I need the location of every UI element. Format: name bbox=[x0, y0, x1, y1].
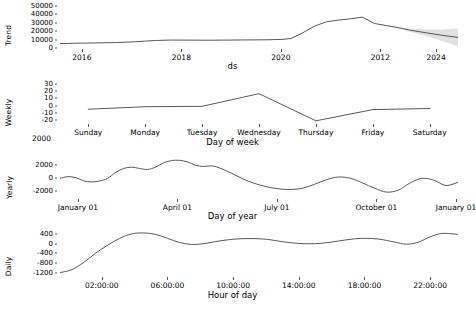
yearly-y-tick-mark bbox=[55, 165, 57, 166]
yearly-x-tick-mark bbox=[376, 199, 377, 202]
daily-x-tick-mark bbox=[430, 277, 431, 280]
trend-x-tick-mark bbox=[82, 49, 83, 52]
daily-y-tick-mark bbox=[55, 273, 57, 274]
daily-plot-area bbox=[60, 230, 458, 276]
daily-y-tick-mark bbox=[55, 243, 57, 244]
weekly-x-axis-label: Day of week bbox=[0, 137, 465, 147]
yearly-y-tick-label: -2000 bbox=[33, 188, 53, 195]
weekly-x-tick-label: Thursday bbox=[298, 128, 333, 137]
weekly-x-tick-mark bbox=[88, 124, 89, 127]
weekly-x-tick-label: Monday bbox=[130, 128, 160, 137]
daily-y-tick-label: 400 bbox=[40, 230, 53, 237]
yearly-x-tick-mark bbox=[78, 199, 79, 202]
daily-x-tick-label: 06:00:00 bbox=[151, 281, 185, 290]
daily-line-chart bbox=[60, 230, 458, 276]
weekly-x-tick-label: Wednesday bbox=[237, 128, 280, 137]
panel-trend: Trend 50000400003000020000100000 2016201… bbox=[0, 0, 465, 70]
weekly-y-tick-mark bbox=[55, 105, 57, 106]
yearly-x-tick-mark bbox=[277, 199, 278, 202]
yearly-x-tick-mark bbox=[456, 199, 457, 202]
yearly-line-chart bbox=[60, 156, 458, 198]
trend-x-tick-mark bbox=[181, 49, 182, 52]
daily-y-tick-mark bbox=[55, 263, 57, 264]
yearly-plot-area bbox=[60, 156, 458, 198]
daily-x-tick-label: 14:00:00 bbox=[282, 281, 316, 290]
weekly-y-tick-mark bbox=[55, 98, 57, 99]
daily-y-tick-mark bbox=[55, 253, 57, 254]
weekly-x-tick-mark bbox=[145, 124, 146, 127]
daily-x-tick-label: 10:00:00 bbox=[216, 281, 250, 290]
daily-x-axis-label: Hour of day bbox=[0, 290, 465, 300]
trend-y-tick-label: 10000 bbox=[31, 36, 53, 43]
daily-x-ticks: 02:00:0006:00:0010:00:0014:00:0018:00:00… bbox=[0, 277, 465, 291]
trend-y-tick-label: 30000 bbox=[31, 19, 53, 26]
trend-y-tick-mark bbox=[55, 22, 57, 23]
daily-y-tick-label: -1200 bbox=[33, 270, 53, 277]
trend-y-tick-label: 20000 bbox=[31, 28, 53, 35]
daily-x-tick-mark bbox=[167, 277, 168, 280]
daily-y-tick-label: -400 bbox=[37, 250, 53, 257]
daily-y-tick-label: -800 bbox=[37, 260, 53, 267]
trend-y-tick-label: 50000 bbox=[31, 2, 53, 9]
daily-y-tick-label: 0 bbox=[49, 240, 53, 247]
daily-y-tick-mark bbox=[55, 233, 57, 234]
daily-x-tick-mark bbox=[102, 277, 103, 280]
weekly-x-tick-mark bbox=[202, 124, 203, 127]
trend-y-tick-mark bbox=[55, 31, 57, 32]
weekly-x-ticks: SundayMondayTuesdayWednesdayThursdayFrid… bbox=[0, 124, 465, 138]
trend-y-tick-mark bbox=[55, 14, 57, 15]
yearly-x-tick-mark bbox=[177, 199, 178, 202]
weekly-y-tick-mark bbox=[55, 91, 57, 92]
weekly-x-tick-label: Friday bbox=[361, 128, 384, 137]
weekly-plot-area bbox=[60, 81, 458, 123]
panel-weekly: Weekly 3020100-10-20 SundayMondayTuesday… bbox=[0, 76, 465, 148]
weekly-x-tick-mark bbox=[316, 124, 317, 127]
weekly-x-tick-mark bbox=[259, 124, 260, 127]
yearly-x-axis-label: Day of year bbox=[0, 211, 465, 221]
trend-x-tick-mark bbox=[380, 49, 381, 52]
trend-x-axis-label: ds bbox=[0, 61, 465, 71]
yearly-y-tick-mark bbox=[55, 191, 57, 192]
daily-x-tick-label: 02:00:00 bbox=[85, 281, 119, 290]
weekly-x-tick-mark bbox=[430, 124, 431, 127]
daily-x-tick-label: 22:00:00 bbox=[413, 281, 447, 290]
trend-line-chart bbox=[60, 4, 458, 48]
trend-x-tick-mark bbox=[436, 49, 437, 52]
yearly-y-tick-label: 0 bbox=[49, 175, 53, 182]
weekly-y-tick-mark bbox=[55, 83, 57, 84]
daily-x-tick-label: 18:00:00 bbox=[348, 281, 382, 290]
weekly-x-tick-label: Sunday bbox=[74, 128, 102, 137]
stray-tick-label: 2000 bbox=[32, 134, 51, 143]
weekly-y-tick-mark bbox=[55, 120, 57, 121]
trend-y-tick-label: 40000 bbox=[31, 11, 53, 18]
trend-y-tick-mark bbox=[55, 39, 57, 40]
yearly-y-tick-mark bbox=[55, 178, 57, 179]
daily-x-tick-mark bbox=[233, 277, 234, 280]
panel-daily: Daily 4000-400-800-1200 02:00:0006:00:00… bbox=[0, 226, 465, 306]
panel-yearly: Yearly 20000-2000 January 01April 01July… bbox=[0, 152, 465, 222]
weekly-line-chart bbox=[60, 81, 458, 123]
daily-x-tick-mark bbox=[364, 277, 365, 280]
weekly-y-tick-label: -20 bbox=[42, 117, 53, 124]
trend-plot-area bbox=[60, 4, 458, 48]
weekly-x-tick-label: Saturday bbox=[413, 128, 447, 137]
weekly-x-tick-label: Tuesday bbox=[187, 128, 218, 137]
weekly-x-tick-mark bbox=[373, 124, 374, 127]
trend-y-tick-mark bbox=[55, 5, 57, 6]
weekly-y-tick-mark bbox=[55, 112, 57, 113]
trend-x-tick-mark bbox=[281, 49, 282, 52]
yearly-y-tick-label: 2000 bbox=[35, 162, 53, 169]
daily-x-tick-mark bbox=[299, 277, 300, 280]
